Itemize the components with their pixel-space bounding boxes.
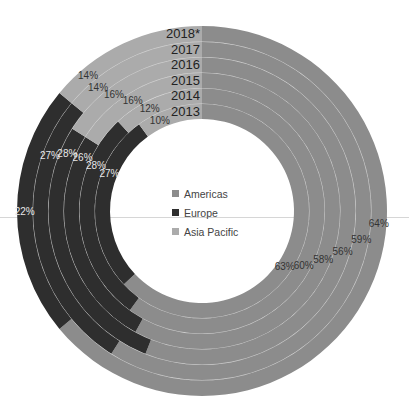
value-label: 14% xyxy=(78,70,98,81)
value-label: 58% xyxy=(313,254,333,265)
value-label: 27% xyxy=(40,150,60,161)
value-label: 22% xyxy=(15,206,35,217)
value-label: 56% xyxy=(333,246,353,257)
legend-label: Americas xyxy=(184,188,228,200)
legend-item-europe: Europe xyxy=(172,203,238,222)
year-label: 2013 xyxy=(171,104,200,119)
value-label: 64% xyxy=(369,218,389,229)
legend-swatch-americas xyxy=(172,190,179,197)
legend-label: Asia Pacific xyxy=(184,226,238,238)
legend-item-americas: Americas xyxy=(172,184,238,203)
legend: Americas Europe Asia Pacific xyxy=(172,184,238,241)
value-label: 28% xyxy=(57,148,77,159)
year-label: 2018* xyxy=(166,26,200,41)
year-label: 2014 xyxy=(171,88,200,103)
legend-item-asia-pacific: Asia Pacific xyxy=(172,222,238,241)
year-label: 2015 xyxy=(171,73,200,88)
legend-swatch-europe xyxy=(172,209,179,216)
legend-label: Europe xyxy=(184,207,218,219)
value-label: 59% xyxy=(351,234,371,245)
year-label: 2017 xyxy=(171,42,200,57)
year-label: 2016 xyxy=(171,57,200,72)
value-label: 16% xyxy=(123,95,143,106)
legend-swatch-asia-pacific xyxy=(172,228,179,235)
value-label: 14% xyxy=(88,82,108,93)
value-label: 63% xyxy=(275,261,295,272)
value-label: 10% xyxy=(150,115,170,126)
value-label: 60% xyxy=(294,260,314,271)
